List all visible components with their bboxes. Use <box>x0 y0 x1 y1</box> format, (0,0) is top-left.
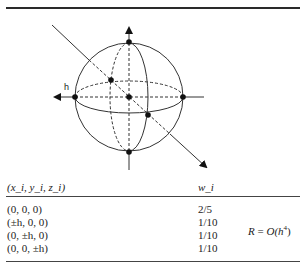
remainder-order: O(h <box>266 225 283 237</box>
row-weight: 2/5 <box>198 203 212 215</box>
row-weight: 1/10 <box>198 229 218 241</box>
row-point: (±h, 0, 0) <box>7 216 48 228</box>
remainder-term: R = O(h4) <box>248 224 291 237</box>
point-minus-y <box>108 77 114 83</box>
row-weight: 1/10 <box>198 216 218 228</box>
bottom-rule <box>6 261 300 262</box>
quadrature-points <box>72 39 186 155</box>
point-plus-z <box>126 39 132 45</box>
row-weight: 1/10 <box>198 242 218 254</box>
header-weight: w_i <box>198 181 214 193</box>
header-rule <box>6 196 300 197</box>
header-point: (x_i, y_i, z_i) <box>7 181 65 193</box>
row-point: (0, 0, ±h) <box>7 242 48 254</box>
point-minus-x <box>72 94 78 100</box>
point-plus-y <box>145 112 151 118</box>
row-point: (0, 0, 0) <box>7 203 42 215</box>
remainder-close: ) <box>287 225 291 237</box>
equals-sign: = <box>255 225 267 237</box>
y-axis-arrow <box>170 134 206 167</box>
row-point: (0, ±h, 0) <box>7 229 48 241</box>
axis-label-h: h <box>64 82 69 92</box>
sphere-diagram <box>0 0 308 175</box>
remainder-lhs: R <box>248 225 255 237</box>
point-minus-z <box>126 149 132 155</box>
point-plus-x <box>180 94 186 100</box>
point-center <box>126 94 132 100</box>
